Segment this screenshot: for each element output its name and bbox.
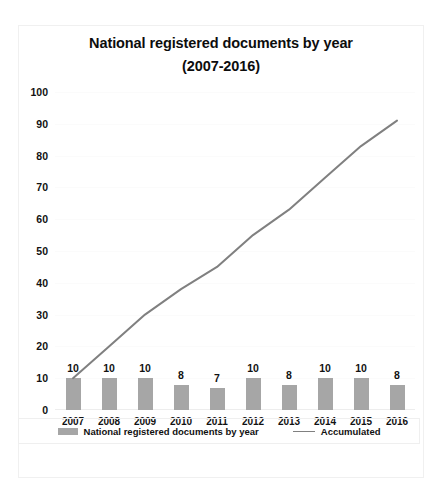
legend-item-bar-series: National registered documents by year (58, 426, 259, 437)
accumulated-line (73, 121, 397, 379)
y-axis-tick-label: 70 (36, 181, 48, 193)
bar-value-label: 8 (286, 369, 292, 381)
bar-value-label: 10 (103, 362, 115, 374)
bar-value-label: 8 (178, 369, 184, 381)
plot-area: 0102030405060708090100 1010108710810108 … (55, 92, 415, 410)
bar-swatch-icon (58, 428, 78, 435)
bar-value-label: 10 (67, 362, 79, 374)
y-axis-tick-label: 50 (36, 245, 48, 257)
bar-value-label: 10 (139, 362, 151, 374)
chart-container: National registered documents by year (2… (18, 25, 424, 478)
y-axis-tick-label: 0 (42, 404, 48, 416)
legend-label-line-series: Accumulated (321, 426, 381, 437)
bar-value-label: 10 (247, 362, 259, 374)
y-axis-tick-label: 80 (36, 150, 48, 162)
y-axis-tick-label: 90 (36, 118, 48, 130)
y-axis-tick-label: 10 (36, 372, 48, 384)
bar-value-label: 7 (214, 372, 220, 384)
y-axis-tick-label: 100 (30, 86, 48, 98)
bar-value-label: 10 (319, 362, 331, 374)
y-axis-tick-label: 40 (36, 277, 48, 289)
y-axis-tick-label: 30 (36, 309, 48, 321)
legend-item-line-series: Accumulated (293, 426, 381, 437)
y-axis-tick-label: 60 (36, 213, 48, 225)
chart-title: National registered documents by year (2… (19, 32, 423, 78)
chart-title-line-1: National registered documents by year (19, 32, 423, 55)
chart-title-line-2: (2007-2016) (19, 55, 423, 78)
bar-value-label: 8 (394, 369, 400, 381)
y-axis-tick-label: 20 (36, 340, 48, 352)
chart-legend: National registered documents by year Ac… (18, 418, 420, 444)
line-swatch-icon (293, 431, 315, 432)
legend-label-bar-series: National registered documents by year (84, 426, 259, 437)
bar-value-label: 10 (355, 362, 367, 374)
